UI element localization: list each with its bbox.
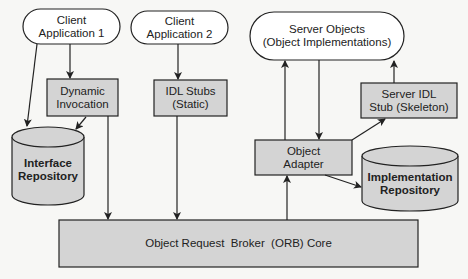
server-idl-stub-label: Server IDL Stub (Skeleton) bbox=[361, 83, 457, 118]
implementation-repository-label: Implementation Repository bbox=[362, 166, 458, 202]
interface-repository-label: Interface Repository bbox=[12, 150, 84, 190]
client-app-2-label: Client Application 2 bbox=[131, 11, 228, 44]
idl-stubs-label: IDL Stubs (Static) bbox=[154, 80, 227, 116]
client-app-1-label: Client Application 1 bbox=[23, 9, 120, 44]
server-objects-label: Server Objects (Object Implementations) bbox=[250, 12, 404, 60]
dynamic-invocation-label: Dynamic Invocation bbox=[47, 79, 118, 116]
orb-core-label: Object Request Broker (ORB) Core bbox=[59, 220, 418, 267]
corba-architecture-diagram: Client Application 1 Client Application … bbox=[0, 0, 468, 279]
object-adapter-label: Object Adapter bbox=[255, 140, 352, 175]
